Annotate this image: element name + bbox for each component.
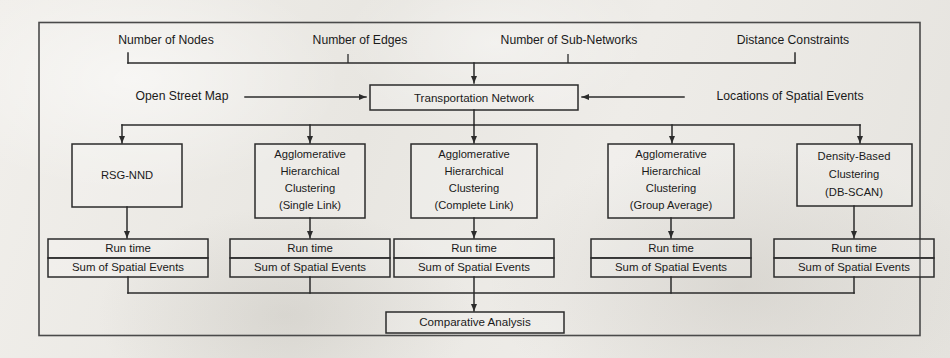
transportation-network-label: Transportation Network (414, 91, 534, 104)
metrics-sum-label-4: Sum of Spatial Events (615, 261, 727, 273)
metrics-runtime-label-1: Run time (105, 242, 151, 254)
method-label-ahc-single-line-1: Agglomerative (274, 148, 346, 160)
metrics-node-ahc-group-average[interactable]: Run time Sum of Spatial Events (591, 239, 751, 277)
method-label-ahc-single-line-2: Hierarchical (280, 165, 339, 177)
metrics-sum-label-1: Sum of Spatial Events (72, 261, 184, 273)
method-label-ahc-complete-line-2: Hierarchical (444, 165, 503, 177)
transportation-network-node[interactable]: Transportation Network (370, 85, 578, 110)
method-distribution-bus (122, 110, 860, 143)
method-node-ahc-complete-link[interactable]: Agglomerative Hierarchical Clustering (C… (411, 144, 537, 218)
metrics-runtime-label-5: Run time (831, 242, 877, 254)
method-label-rsg-nnd-line-1: RSG-NND (101, 169, 153, 181)
metrics-node-ahc-single-link[interactable]: Run time Sum of Spatial Events (230, 239, 390, 277)
output-node-comparative-analysis[interactable]: Comparative Analysis (386, 312, 564, 333)
method-label-ahc-complete-line-4: (Complete Link) (435, 199, 514, 211)
source-label-open-street-map: Open Street Map (136, 89, 229, 103)
method-label-ahc-group-line-1: Agglomerative (635, 148, 707, 160)
input-label-number-of-nodes: Number of Nodes (118, 33, 214, 47)
method-label-ahc-group-line-3: Clustering (646, 182, 696, 194)
metrics-node-ahc-complete-link[interactable]: Run time Sum of Spatial Events (394, 239, 554, 277)
input-parameters-bracket (128, 53, 795, 83)
source-label-locations-of-spatial-events: Locations of Spatial Events (716, 89, 863, 103)
metrics-node-rsg-nnd[interactable]: Run time Sum of Spatial Events (48, 239, 208, 277)
method-label-ahc-group-line-4: (Group Average) (630, 199, 713, 211)
metrics-sum-label-3: Sum of Spatial Events (418, 261, 530, 273)
input-label-number-of-sub-networks: Number of Sub-Networks (501, 33, 638, 47)
metrics-runtime-label-3: Run time (451, 242, 497, 254)
method-label-dbscan-line-3: (DB-SCAN) (825, 186, 883, 198)
metrics-node-dbscan[interactable]: Run time Sum of Spatial Events (774, 239, 934, 277)
metrics-runtime-label-4: Run time (648, 242, 694, 254)
method-label-ahc-complete-line-1: Agglomerative (438, 148, 510, 160)
method-label-dbscan-line-1: Density-Based (818, 150, 891, 162)
comparative-analysis-label: Comparative Analysis (419, 315, 531, 328)
method-label-ahc-single-line-3: Clustering (285, 182, 335, 194)
method-label-ahc-single-line-4: (Single Link) (279, 199, 341, 211)
metrics-collector-bus (128, 277, 854, 311)
method-node-rsg-nnd[interactable]: RSG-NND (72, 144, 182, 207)
metrics-sum-label-5: Sum of Spatial Events (798, 261, 910, 273)
input-label-distance-constraints: Distance Constraints (737, 33, 849, 47)
method-label-ahc-group-line-2: Hierarchical (641, 165, 700, 177)
method-label-ahc-complete-line-3: Clustering (449, 182, 499, 194)
input-label-number-of-edges: Number of Edges (313, 33, 408, 47)
method-node-ahc-single-link[interactable]: Agglomerative Hierarchical Clustering (S… (255, 144, 365, 218)
flowchart-diagram: Number of Nodes Number of Edges Number o… (0, 0, 950, 358)
metrics-runtime-label-2: Run time (287, 242, 333, 254)
method-label-dbscan-line-2: Clustering (829, 168, 879, 180)
metrics-sum-label-2: Sum of Spatial Events (254, 261, 366, 273)
method-node-ahc-group-average[interactable]: Agglomerative Hierarchical Clustering (G… (608, 144, 734, 218)
method-node-dbscan[interactable]: Density-Based Clustering (DB-SCAN) (797, 144, 912, 206)
